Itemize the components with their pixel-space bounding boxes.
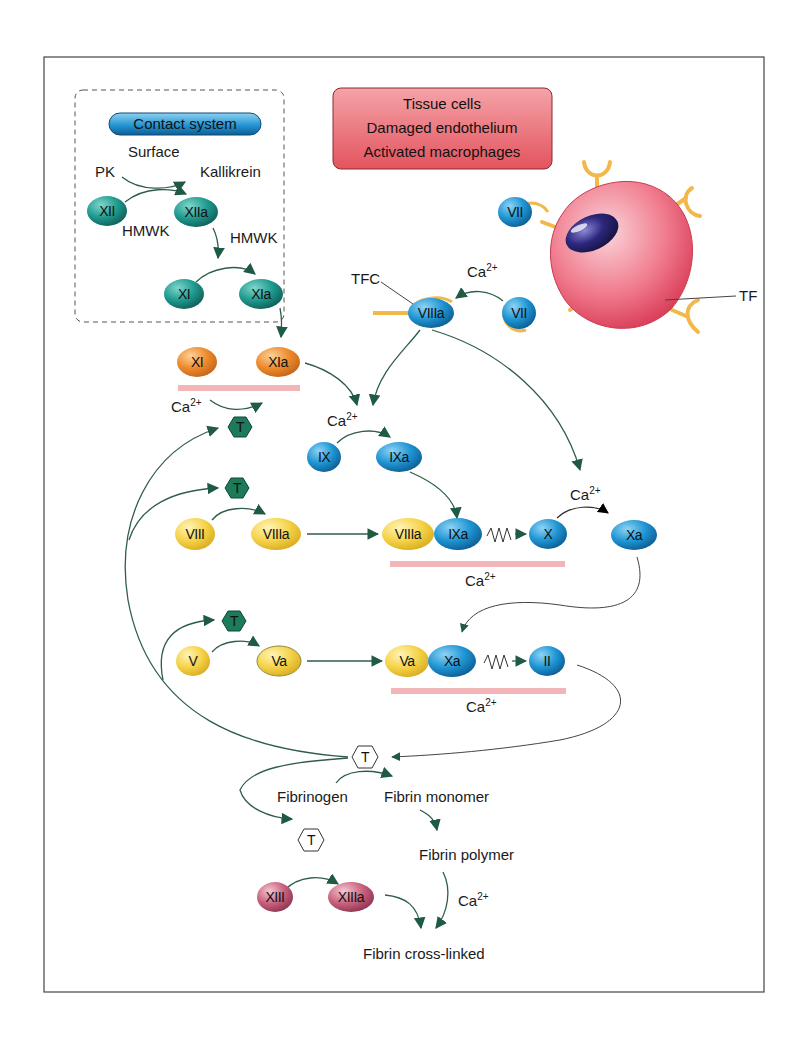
label-fibrin-monomer: Fibrin monomer	[384, 788, 489, 805]
thrombin-hexagon-main: T	[352, 746, 378, 768]
node-xiiia: XIIIa	[328, 882, 374, 912]
membrane-1	[178, 385, 300, 391]
node-ixa: IXa	[376, 442, 422, 472]
label-surface: Surface	[128, 143, 180, 160]
node-xiia: XIIa	[174, 197, 218, 227]
svg-text:XIa: XIa	[268, 354, 288, 370]
label-hmwk-1: HMWK	[122, 222, 170, 239]
svg-text:XII: XII	[99, 203, 115, 219]
svg-text:T: T	[236, 419, 245, 435]
tissue-line-1: Tissue cells	[403, 95, 481, 112]
svg-text:XIIa: XIIa	[185, 204, 209, 220]
label-fibrin-crosslinked: Fibrin cross-linked	[363, 945, 485, 962]
svg-text:VII: VII	[511, 305, 527, 321]
node-v: V	[176, 646, 210, 676]
label-kallikrein: Kallikrein	[200, 163, 261, 180]
svg-text:XIa: XIa	[251, 286, 271, 302]
node-xia-orange: XIa	[256, 347, 300, 377]
svg-text:T: T	[307, 832, 316, 848]
svg-text:VIIIa: VIIIa	[263, 526, 290, 542]
membrane-3	[391, 688, 566, 694]
node-x: X	[529, 519, 567, 549]
svg-text:II: II	[544, 653, 551, 669]
svg-text:XI: XI	[178, 286, 190, 302]
svg-text:VII: VII	[507, 204, 523, 220]
node-va: Va	[257, 646, 301, 676]
thrombin-hexagon-xiii: T	[298, 829, 324, 851]
tissue-source-box: Tissue cells Damaged endothelium Activat…	[333, 88, 552, 169]
node-xi-orange: XI	[177, 347, 217, 377]
node-xiii: XIII	[257, 882, 293, 912]
membrane-2	[390, 561, 565, 567]
label-fibrinogen: Fibrinogen	[277, 788, 348, 805]
node-xa: Xa	[611, 520, 657, 550]
svg-text:VIII: VIII	[185, 526, 204, 542]
svg-text:T: T	[361, 749, 370, 765]
svg-text:Va: Va	[271, 653, 287, 669]
label-pk: PK	[95, 163, 115, 180]
svg-text:XIIIa: XIIIa	[338, 889, 365, 905]
contact-system-title: Contact system	[133, 115, 236, 132]
label-fibrin-polymer: Fibrin polymer	[419, 846, 514, 863]
svg-text:T: T	[230, 613, 239, 629]
svg-text:X: X	[544, 526, 554, 542]
svg-text:Va: Va	[399, 653, 415, 669]
label-tf: TF	[739, 287, 757, 304]
svg-text:XI: XI	[191, 354, 203, 370]
svg-text:Xa: Xa	[626, 527, 643, 543]
svg-text:Xa: Xa	[444, 653, 461, 669]
node-xii: XII	[87, 196, 127, 226]
svg-text:IXa: IXa	[389, 449, 409, 465]
svg-text:V: V	[189, 653, 199, 669]
svg-text:VIIIa: VIIIa	[395, 526, 422, 542]
coagulation-diagram: Contact system Surface PK Kallikrein XII…	[0, 0, 803, 1039]
label-hmwk-2: HMWK	[230, 229, 278, 246]
svg-text:XIII: XIII	[265, 889, 284, 905]
tissue-line-3: Activated macrophages	[364, 143, 521, 160]
node-viiia-tfc: VIIIa	[418, 305, 445, 321]
svg-text:T: T	[233, 480, 242, 496]
svg-text:IXa: IXa	[448, 526, 468, 542]
node-xia-contact: XIa	[239, 279, 283, 309]
tissue-line-2: Damaged endothelium	[367, 119, 518, 136]
label-tfc: TFC	[351, 270, 380, 287]
node-viii: VIII	[175, 518, 215, 550]
svg-text:IX: IX	[318, 449, 331, 465]
node-ii: II	[529, 646, 565, 676]
node-ix: IX	[307, 442, 341, 472]
node-viiia: VIIIa	[251, 518, 301, 550]
node-xi-contact: XI	[164, 279, 204, 309]
